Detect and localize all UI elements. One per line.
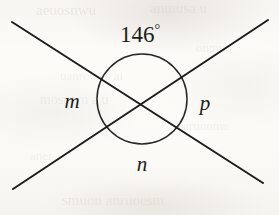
angle-arc-circle	[97, 54, 187, 144]
geometry-figure: aeuosnwu anmusa u onmuo uanromes ai mosu…	[0, 0, 279, 215]
angle-value-text: 146	[120, 22, 155, 47]
angle-label-m: m	[64, 91, 79, 112]
angle-label-p: p	[200, 93, 211, 114]
angle-label-top: 146°	[120, 22, 160, 47]
angle-label-n: n	[137, 154, 148, 175]
degree-symbol-icon: °	[154, 21, 160, 37]
